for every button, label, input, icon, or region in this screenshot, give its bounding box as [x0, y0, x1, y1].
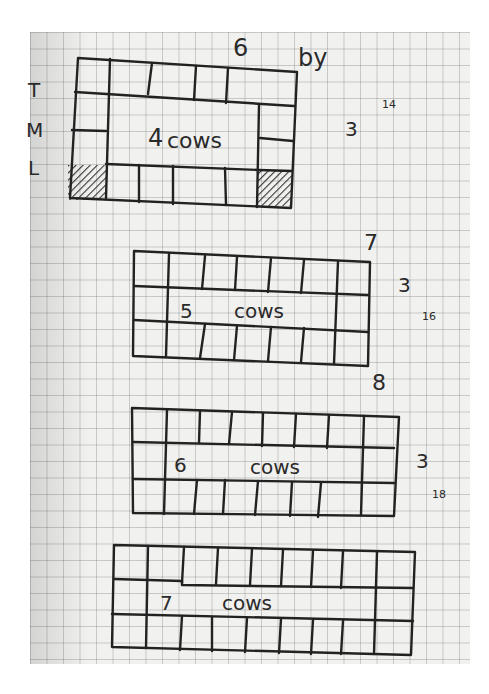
- d3-count: 6: [174, 453, 187, 477]
- d2-side-label: 3: [398, 273, 411, 297]
- d2-count: 5: [180, 299, 193, 323]
- side-letter-m: M: [26, 118, 43, 142]
- d3-margin-note: 18: [432, 488, 446, 501]
- handwritten-drawing: T M L 6 by 3 14 4 cows 7 3 16 5 cows 8 3…: [0, 0, 489, 694]
- d1-word: cows: [167, 128, 222, 153]
- d3-side-label: 3: [416, 449, 429, 473]
- d3-word: cows: [250, 455, 300, 479]
- d4-count: 7: [160, 591, 173, 615]
- d2-top-label: 7: [364, 230, 378, 255]
- d1-by-label: by: [298, 44, 327, 72]
- d1-side-label: 3: [345, 117, 358, 141]
- d2-margin-note: 16: [422, 310, 436, 323]
- side-letter-t: T: [27, 78, 41, 102]
- side-letter-l: L: [28, 156, 40, 180]
- d1-count: 4: [148, 124, 163, 152]
- d2-word: cows: [234, 299, 284, 323]
- d4-word: cows: [222, 591, 272, 615]
- d1-top-label: 6: [233, 34, 248, 62]
- d1-margin-note: 14: [382, 98, 396, 111]
- d3-top-label: 8: [372, 370, 386, 395]
